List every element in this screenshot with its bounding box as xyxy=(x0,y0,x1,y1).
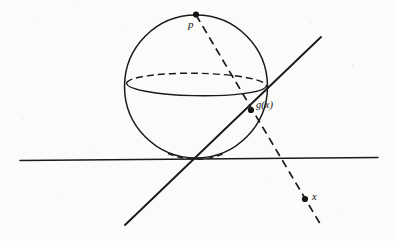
sphere-outline xyxy=(125,15,268,158)
point-x-dot xyxy=(302,196,308,202)
point-gx-dot xyxy=(248,107,254,113)
tangent-line xyxy=(125,37,321,225)
label-p: p xyxy=(187,18,194,30)
equator-back-arc xyxy=(127,73,267,86)
stereographic-projection-diagram: p g(x) x xyxy=(0,0,396,241)
label-x: x xyxy=(311,191,317,202)
point-p-dot xyxy=(193,11,199,17)
projection-ray xyxy=(196,15,322,227)
figure-canvas: p g(x) x xyxy=(0,0,396,241)
label-gx: g(x) xyxy=(256,99,273,111)
equator-front-arc xyxy=(127,83,267,96)
